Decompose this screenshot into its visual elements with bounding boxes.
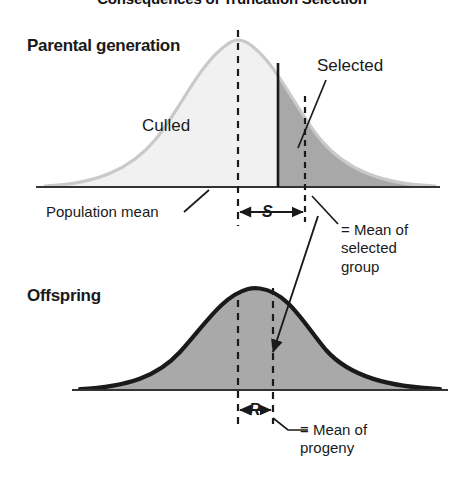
culled-region-label: Culled	[142, 116, 190, 135]
population-mean-label: Population mean	[46, 204, 159, 221]
selection-differential-symbol: S	[262, 203, 273, 221]
page-title: Consequences of Truncation Selection	[0, 0, 464, 8]
offspring-area	[80, 288, 440, 389]
population-mean-leader-line	[184, 190, 209, 212]
selected-region-label: Selected	[317, 56, 383, 75]
diagram-canvas: Consequences of Truncation Selection Par…	[0, 0, 464, 485]
mean-of-selected-group-label: = Mean of selected group	[341, 221, 408, 276]
parental-generation-label: Parental generation	[27, 36, 180, 55]
mean-of-progeny-label: = Mean of progeny	[300, 421, 367, 458]
offspring-label: Offspring	[27, 286, 101, 305]
response-symbol: R	[249, 401, 261, 419]
